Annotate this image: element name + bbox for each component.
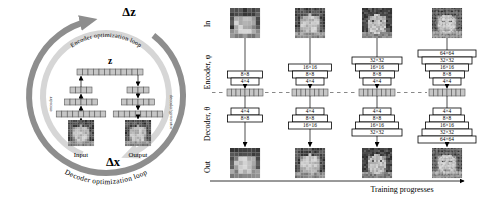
encoder-loop-label-text: Encoder optimization loop bbox=[69, 31, 144, 49]
encoder-block-8x8: 8×8 bbox=[430, 71, 465, 78]
encoder-block-label: 16×16 bbox=[303, 64, 317, 70]
decoder-block-label: 32×32 bbox=[440, 129, 454, 135]
decoder-block-label: 32×32 bbox=[370, 129, 384, 135]
out-face-image bbox=[230, 148, 260, 178]
decoder-feature-row bbox=[127, 87, 149, 93]
output-label: Output bbox=[129, 151, 148, 158]
latent-z-label: z bbox=[108, 56, 113, 66]
right-panel: In Encoder, φ Decoder, θ Out Training pr… bbox=[203, 8, 476, 194]
encoder-block-32x32: 32×32 bbox=[422, 57, 472, 64]
row-label-encoder-phi: Encoder, φ bbox=[203, 54, 212, 89]
decoder-block-8x8: 8×8 bbox=[430, 115, 465, 122]
encoder-block-4x4: 4×4 bbox=[433, 78, 461, 85]
training-axis-label: Training progresses bbox=[370, 185, 433, 194]
encoder-block-32x32: 32×32 bbox=[352, 57, 402, 64]
decoder-block-4x4: 4×4 bbox=[363, 108, 391, 115]
out-face-image bbox=[362, 148, 392, 178]
figure-progressive-autoencoder: Encoder optimization loop Decoder optimi… bbox=[0, 0, 500, 201]
encoder-block-label: 32×32 bbox=[370, 57, 384, 63]
decoder-block-16x16: 16×16 bbox=[426, 122, 469, 129]
in-face-image bbox=[432, 8, 462, 38]
decoder-block-8x8: 8×8 bbox=[360, 115, 395, 122]
encoder-block-64x64: 64×64 bbox=[418, 50, 476, 57]
decoder-block-label: 4×4 bbox=[373, 108, 382, 114]
encoder-block-16x16: 16×16 bbox=[356, 64, 399, 71]
encoder-block-8x8: 8×8 bbox=[360, 71, 395, 78]
decoder-block-32x32: 32×32 bbox=[352, 129, 402, 136]
encoder-block-label: 64×64 bbox=[440, 50, 454, 56]
decoder-generator-side-label: decoder/generator bbox=[169, 95, 174, 130]
decoder-block-label: 16×16 bbox=[303, 122, 317, 128]
in-face-image bbox=[362, 8, 392, 38]
decoder-block-label: 4×4 bbox=[306, 108, 315, 114]
output-face-image bbox=[125, 120, 151, 146]
decoder-block-4x4: 4×4 bbox=[231, 108, 259, 115]
latent-code-row bbox=[292, 89, 328, 96]
encoder-block-label: 4×4 bbox=[443, 78, 452, 84]
decoder-block-label: 8×8 bbox=[443, 115, 452, 121]
decoder-block-label: 16×16 bbox=[370, 122, 384, 128]
encoder-block-4x4: 4×4 bbox=[231, 78, 259, 85]
right-panel-network: 8×84×44×48×816×168×84×44×48×816×1632×321… bbox=[210, 8, 476, 181]
latent-code-row bbox=[429, 89, 465, 96]
decoder-block-label: 8×8 bbox=[306, 115, 315, 121]
encoder-side-label: encoder bbox=[48, 96, 53, 112]
decoder-block-label: 8×8 bbox=[373, 115, 382, 121]
input-label: Input bbox=[74, 151, 88, 158]
out-face-image bbox=[432, 148, 462, 178]
in-face-image bbox=[230, 8, 260, 38]
encoder-loop-label: Encoder optimization loop bbox=[69, 31, 144, 49]
decoder-block-4x4: 4×4 bbox=[433, 108, 461, 115]
row-label-out: Out bbox=[203, 160, 212, 173]
decoder-feature-row bbox=[122, 99, 155, 105]
decoder-block-8x8: 8×8 bbox=[228, 115, 263, 122]
decoder-block-16x16: 16×16 bbox=[289, 122, 332, 129]
row-label-in: In bbox=[203, 21, 212, 28]
encoder-block-label: 16×16 bbox=[440, 64, 454, 70]
delta-x-label: Δx bbox=[106, 155, 121, 169]
encoder-block-label: 16×16 bbox=[370, 64, 384, 70]
decoder-block-label: 8×8 bbox=[241, 115, 250, 121]
encoder-block-label: 8×8 bbox=[443, 71, 452, 77]
latent-code-row bbox=[359, 89, 395, 96]
decoder-feature-row bbox=[113, 111, 163, 117]
encoder-block-label: 4×4 bbox=[373, 78, 382, 84]
latent-z-row bbox=[77, 69, 143, 75]
encoder-block-16x16: 16×16 bbox=[289, 64, 332, 71]
decoder-block-16x16: 16×16 bbox=[356, 122, 399, 129]
figure-canvas: Encoder optimization loop Decoder optimi… bbox=[0, 0, 500, 201]
encoder-block-4x4: 4×4 bbox=[296, 78, 324, 85]
decoder-block-4x4: 4×4 bbox=[296, 108, 324, 115]
encoder-block-label: 4×4 bbox=[306, 78, 315, 84]
decoder-block-64x64: 64×64 bbox=[418, 136, 476, 143]
decoder-block-32x32: 32×32 bbox=[422, 129, 472, 136]
delta-z-label: Δz bbox=[122, 5, 136, 19]
encoder-block-8x8: 8×8 bbox=[293, 71, 328, 78]
encoder-block-8x8: 8×8 bbox=[228, 71, 263, 78]
latent-code-row bbox=[227, 89, 263, 96]
encoder-block-16x16: 16×16 bbox=[426, 64, 469, 71]
left-panel-network bbox=[56, 69, 163, 146]
row-label-decoder-theta: Decoder, θ bbox=[203, 107, 212, 142]
encoder-block-label: 8×8 bbox=[241, 71, 250, 77]
encoder-block-label: 4×4 bbox=[241, 78, 250, 84]
encoder-block-4x4: 4×4 bbox=[363, 78, 391, 85]
encoder-feature-row bbox=[70, 87, 92, 93]
encoder-feature-row bbox=[65, 99, 98, 105]
out-face-image bbox=[295, 148, 325, 178]
decoder-block-label: 64×64 bbox=[440, 136, 454, 142]
encoder-feature-row bbox=[56, 111, 106, 117]
decoder-block-label: 4×4 bbox=[443, 108, 452, 114]
encoder-block-label: 8×8 bbox=[306, 71, 315, 77]
encoder-block-label: 32×32 bbox=[440, 57, 454, 63]
left-panel: Encoder optimization loop Decoder optimi… bbox=[29, 5, 183, 186]
decoder-block-label: 4×4 bbox=[241, 108, 250, 114]
input-face-image bbox=[68, 120, 94, 146]
decoder-block-label: 16×16 bbox=[440, 122, 454, 128]
in-face-image bbox=[295, 8, 325, 38]
decoder-block-8x8: 8×8 bbox=[293, 115, 328, 122]
encoder-block-label: 8×8 bbox=[373, 71, 382, 77]
